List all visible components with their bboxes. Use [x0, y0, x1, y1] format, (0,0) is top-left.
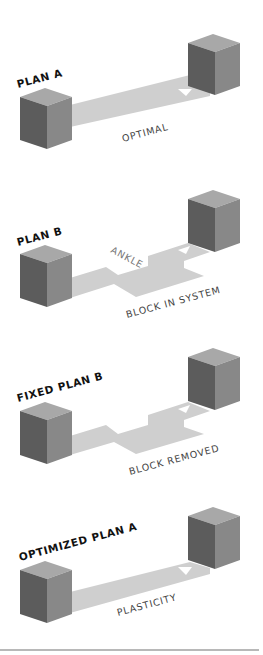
- end-cube: [188, 34, 240, 95]
- end-cube: [188, 190, 240, 252]
- bottom-divider: [0, 649, 259, 651]
- panel-fixed-plan-b: FIXED PLAN B BLOCK REMOVED: [0, 330, 263, 490]
- plan-title: PLAN B: [15, 224, 63, 248]
- panel-optimized-plan-a: OPTIMIZED PLAN A PLASTICITY: [0, 490, 263, 650]
- end-cube: [188, 348, 240, 410]
- panel-plan-b: PLAN B ANKLE BLOCK IN SYSTEM: [0, 170, 263, 330]
- start-cube: [20, 561, 72, 623]
- plan-title: OPTIMIZED PLAN A: [17, 520, 138, 563]
- plan-title: PLAN A: [15, 66, 63, 90]
- panel-plan-a: PLAN A OPTIMAL: [0, 0, 263, 170]
- path-stepped: [70, 243, 210, 298]
- start-cube: [20, 88, 72, 149]
- path-stepped: [70, 402, 210, 455]
- plan-title: FIXED PLAN B: [15, 369, 104, 404]
- path-caption: OPTIMAL: [121, 121, 170, 144]
- obstacle-label: ANKLE: [109, 244, 145, 270]
- start-cube: [20, 402, 72, 464]
- start-cube: [20, 245, 72, 307]
- end-cube: [188, 507, 240, 569]
